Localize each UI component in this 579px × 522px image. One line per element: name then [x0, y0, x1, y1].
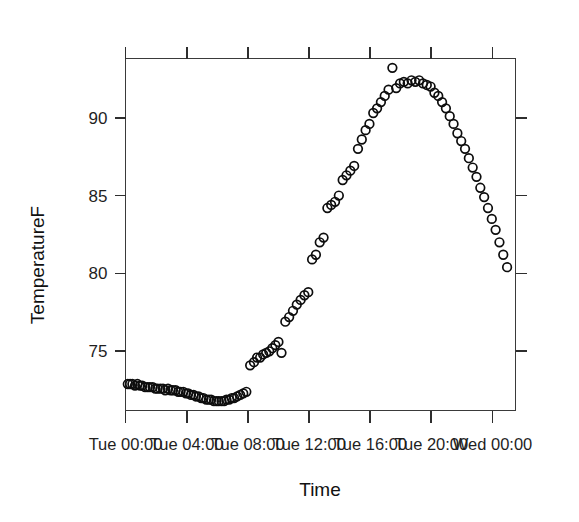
y-tick-label-90: 90: [89, 109, 108, 128]
y-tick-label-85: 85: [89, 187, 108, 206]
temperature-scatter-plot: 75808590 Tue 00:00Tue 04:00Tue 08:00Tue …: [0, 0, 579, 522]
x-axis-tick-labels: Tue 00:00Tue 04:00Tue 08:00Tue 12:00Tue …: [89, 435, 533, 453]
x-axis-title: Time: [299, 479, 341, 500]
y-tick-label-80: 80: [89, 264, 108, 283]
y-axis-title: TemperatureF: [27, 206, 48, 324]
x-tick-label-6: Wed 00:00: [453, 435, 533, 453]
chart-container: 75808590 Tue 00:00Tue 04:00Tue 08:00Tue …: [0, 0, 579, 522]
y-tick-label-75: 75: [89, 342, 108, 361]
